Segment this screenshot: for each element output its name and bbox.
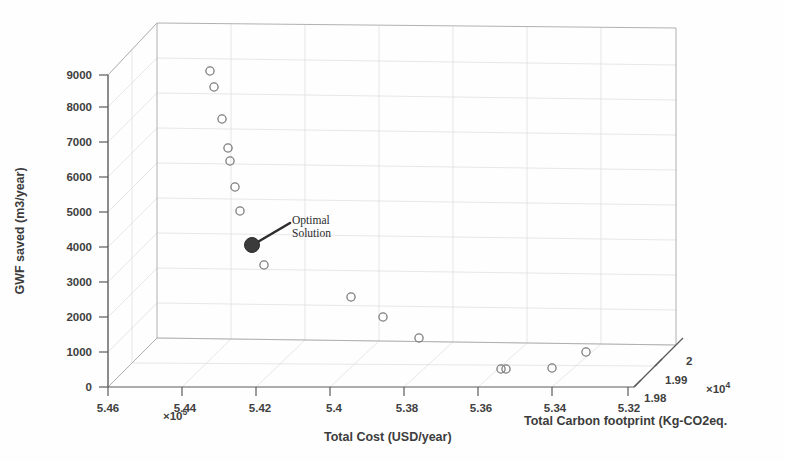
y-tick-label: 8000	[50, 101, 92, 113]
data-point-marker	[502, 365, 510, 373]
data-point-marker	[206, 67, 214, 75]
x-tick-label: 5.42	[249, 402, 271, 414]
optimal-solution-marker	[245, 238, 260, 253]
z-exponent-power: 4	[726, 380, 731, 390]
data-point-markers	[206, 67, 590, 373]
x-exponent-base: ×10	[163, 410, 183, 422]
x-exponent-power: 5	[183, 407, 188, 417]
y-tick-label: 6000	[50, 171, 92, 183]
data-point-marker	[415, 334, 423, 342]
x-axis-title: Total Cost (USD/year)	[324, 430, 452, 444]
back-wall-grid	[157, 24, 676, 345]
z-axis-exponent: ×104	[706, 380, 730, 395]
axes-box-edges	[108, 23, 676, 387]
y-tick-label: 1000	[50, 346, 92, 358]
z-tick-label: 1.99	[665, 374, 687, 386]
z-tick-label: 1.98	[644, 392, 666, 404]
left-wall-grid	[108, 23, 157, 387]
annotation-line-2: Solution	[292, 227, 331, 240]
annotation-line-1: Optimal	[292, 214, 331, 227]
y-axis-ticks	[99, 75, 108, 387]
z-tick-label: 2	[686, 355, 692, 367]
z-exponent-base: ×10	[706, 383, 726, 395]
data-point-marker	[379, 313, 387, 321]
x-axis-ticks	[108, 387, 628, 396]
y-tick-label: 0	[50, 381, 92, 393]
y-tick-label: 5000	[50, 206, 92, 218]
plot-3d-axes	[0, 0, 785, 462]
figure-canvas: 0 1000 2000 3000 4000 5000 6000 7000 800…	[0, 0, 785, 462]
data-point-marker	[260, 261, 268, 269]
annotation-leader-line	[256, 223, 290, 243]
data-point-marker	[210, 83, 218, 91]
x-tick-label: 5.34	[544, 402, 566, 414]
y-tick-label: 2000	[50, 311, 92, 323]
x-axis-exponent: ×105	[163, 407, 187, 422]
x-tick-label: 5.36	[470, 402, 492, 414]
optimal-solution-annotation: Optimal Solution	[292, 214, 331, 239]
y-axis-title: GWF saved (m3/year)	[13, 167, 27, 294]
y-tick-label: 9000	[50, 69, 92, 81]
axis-lines	[108, 75, 676, 387]
optimal-solution-group	[245, 223, 291, 253]
data-point-marker	[218, 115, 226, 123]
data-point-marker	[231, 183, 239, 191]
z-axis-title: Total Carbon footprint (Kg-CO2eq.	[524, 414, 727, 428]
x-tick-label: 5.32	[618, 402, 640, 414]
data-point-marker	[582, 348, 590, 356]
y-tick-label: 4000	[50, 241, 92, 253]
data-point-marker	[347, 293, 355, 301]
x-tick-label: 5.46	[97, 402, 119, 414]
x-tick-label: 5.38	[396, 402, 418, 414]
floor-grid	[133, 339, 658, 387]
data-point-marker	[236, 207, 244, 215]
y-tick-label: 3000	[50, 276, 92, 288]
y-tick-label: 7000	[50, 136, 92, 148]
x-tick-label: 5.4	[326, 402, 342, 414]
